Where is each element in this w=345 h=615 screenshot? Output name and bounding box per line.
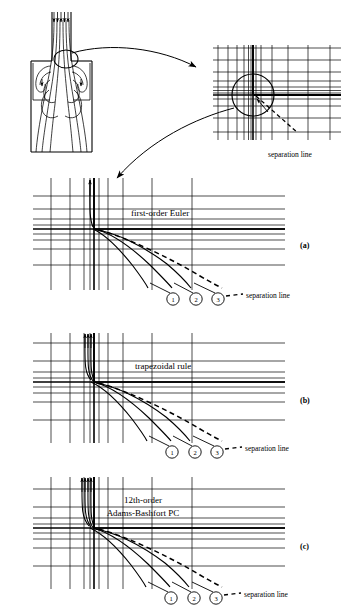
panel-c-separation-label: separation line	[244, 590, 289, 599]
detail-separation-line-label: separation line	[268, 150, 313, 159]
grid-detail-near-corner	[213, 45, 341, 140]
panel-a-tag: (a)	[300, 241, 310, 250]
panel-c: 12th-order Adams-Bashfort PC 1 2 3 separ…	[33, 477, 309, 604]
panel-b-separation-line	[99, 383, 222, 441]
figure-canvas: separation line	[0, 0, 345, 615]
panel-c-trajectory-1	[90, 528, 146, 587]
figure-root: separation line	[0, 0, 345, 615]
panel-a: first-order Euler 1 2 3 separation line …	[33, 178, 310, 305]
overview-flow-diagram	[31, 12, 92, 152]
panel-a-inflow-path	[90, 180, 93, 227]
panel-c-tag: (c)	[300, 542, 309, 551]
zoom-arrow-detail-to-panel-a	[117, 108, 234, 178]
panel-a-trajectory-1	[93, 229, 148, 288]
zoom-arrow-overview-to-detail	[72, 48, 196, 67]
panel-b-marker-1: 1	[170, 449, 173, 456]
panel-a-marker-1: 1	[171, 296, 174, 303]
panel-c-separation-line	[99, 529, 222, 587]
panel-b: trapezoidal rule 1 2 3 separation line (…	[33, 333, 310, 458]
panel-b-trajectory-1	[91, 382, 147, 441]
panel-a-title: first-order Euler	[131, 208, 189, 218]
panel-b-marker-2: 2	[193, 449, 196, 456]
panel-c-marker-3: 3	[214, 595, 217, 602]
panel-a-marker-3: 3	[216, 296, 219, 303]
panel-b-title: trapezoidal rule	[135, 361, 191, 371]
panel-a-markers: 1 2 3	[150, 283, 243, 305]
panel-c-markers: 1 2 3	[148, 582, 241, 604]
panel-c-title: 12th-order	[124, 495, 162, 505]
panel-a-marker-2: 2	[194, 296, 197, 303]
panel-b-separation-label: separation line	[245, 444, 290, 453]
panel-c-marker-2: 2	[192, 595, 195, 602]
panel-b-markers: 1 2 3	[149, 436, 242, 458]
detail-separation-line	[256, 96, 298, 133]
panel-b-tag: (b)	[300, 396, 310, 405]
panel-a-separation-label: separation line	[246, 291, 291, 300]
panel-c-title-line2: Adams-Bashfort PC	[107, 508, 180, 518]
panel-c-marker-1: 1	[169, 595, 172, 602]
panel-b-marker-3: 3	[215, 449, 218, 456]
